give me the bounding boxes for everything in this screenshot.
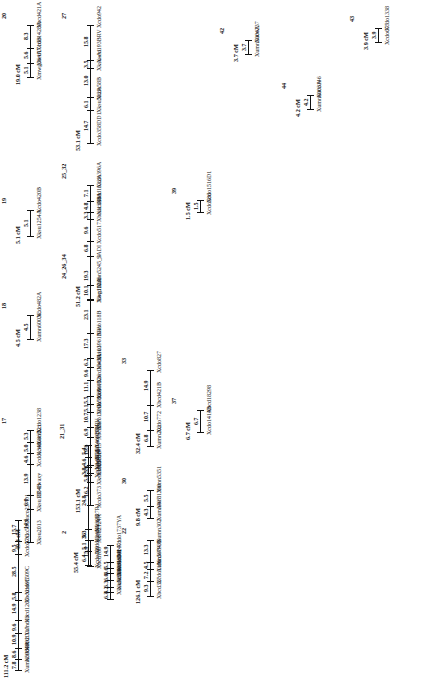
distance-value: 5.4: [81, 447, 87, 455]
marker-label: Xksu1254A: [36, 210, 42, 239]
tick-mark: [147, 490, 154, 491]
tick-mark: [15, 600, 22, 601]
distance-value: 6.3: [103, 592, 109, 600]
distance-value: 19.3: [83, 271, 89, 282]
marker-label: Xumn5984A: [24, 642, 30, 673]
linkage-group-name: 39: [170, 188, 177, 194]
marker-label: Xumn202: [156, 425, 162, 449]
tick-mark: [27, 442, 34, 443]
tick-mark: [87, 143, 94, 144]
marker-label: Xcdo1407A: [94, 449, 100, 478]
distance-value: 6.7: [193, 418, 199, 426]
marker-label: Xwg110A: [96, 278, 102, 303]
distance-value: 5.0: [23, 444, 29, 452]
axis-line: [200, 200, 201, 212]
tick-mark: [147, 581, 154, 582]
tick-mark: [87, 300, 94, 301]
linkage-group-name: 43: [348, 16, 355, 22]
axis-line: [150, 540, 151, 596]
total-length: 55.4 cM: [72, 552, 79, 573]
marker-label: Xaco237D1: [24, 494, 30, 523]
linkage-group-name: 37: [170, 398, 177, 404]
marker-label: Xumn5004A: [254, 26, 260, 57]
distance-value: 3.9: [371, 32, 377, 40]
tick-mark: [27, 315, 34, 316]
tick-mark: [85, 475, 92, 476]
distance-value: 23.1: [83, 310, 89, 321]
distance-value: 4.6: [23, 455, 29, 463]
distance-value: 8.3: [23, 33, 29, 41]
distance-value: 3.3: [83, 212, 89, 220]
tick-mark: [15, 520, 22, 521]
distance-value: 5.3: [23, 433, 29, 441]
marker-label: Xksu-A1: [96, 49, 102, 71]
tick-mark: [87, 185, 94, 186]
tick-mark: [147, 430, 154, 431]
marker-label: Xbcd180: [96, 547, 102, 569]
distance-value: 4.5: [143, 562, 149, 570]
distance-value: 1.5: [193, 203, 199, 211]
tick-mark: [245, 54, 252, 55]
distance-value: 3.8: [81, 467, 87, 475]
tick-mark: [147, 506, 154, 507]
tick-mark: [15, 670, 22, 671]
distance-value: 5.1: [23, 67, 29, 75]
total-length: 4.5 cM: [14, 329, 21, 347]
distance-value: 6.0: [103, 573, 109, 581]
distance-value: 7.2: [143, 571, 149, 579]
marker-label: Xcdo942: [96, 6, 102, 28]
total-length: 126.1 cM: [134, 580, 141, 604]
linkage-group-name: 20: [0, 13, 7, 19]
linkage-group-name: 33: [120, 358, 127, 364]
tick-mark: [15, 554, 22, 555]
tick-mark: [85, 529, 92, 530]
distance-value: 15.9: [83, 547, 89, 558]
tick-mark: [27, 453, 34, 454]
distance-value: 8.6: [11, 650, 17, 658]
distance-value: 5.8: [11, 593, 17, 601]
tick-mark: [27, 63, 34, 64]
total-length: 1.5 cM: [184, 202, 191, 220]
axis-line: [310, 95, 311, 109]
distance-value: 10.9: [11, 634, 17, 645]
distance-value: 6.2: [83, 359, 89, 367]
marker-label: Xcdo586: [206, 193, 212, 215]
tick-mark: [87, 97, 94, 98]
distance-value: 28.5: [11, 567, 17, 578]
distance-value: 15.8: [83, 36, 89, 47]
tick-mark: [87, 540, 94, 541]
tick-mark: [197, 212, 204, 213]
linkage-group-name: 44: [280, 83, 287, 89]
axis-line: [90, 540, 91, 566]
marker-label: Xksu1254B: [36, 483, 42, 512]
axis-line: [30, 25, 31, 77]
axis-line: [30, 210, 31, 236]
tick-mark: [15, 648, 22, 649]
distance-value: 10.7: [83, 413, 89, 424]
marker-label: Xksu2124A: [96, 514, 102, 543]
linkage-group-name: 25_32: [60, 164, 67, 179]
marker-label: Xbcd327: [156, 577, 162, 599]
distance-value: 14.9: [103, 547, 109, 558]
tick-mark: [147, 569, 154, 570]
total-length: 51.2 cM: [74, 286, 81, 307]
distance-value: 4.6: [81, 458, 87, 466]
marker-label: Xbcd421B: [156, 382, 162, 408]
distance-value: 9.6: [11, 623, 17, 631]
tick-mark: [27, 210, 34, 211]
distance-value: 5.6: [23, 52, 29, 60]
axis-line: [200, 410, 201, 432]
distance-value: 9.6: [83, 370, 89, 378]
distance-value: 4.3: [143, 508, 149, 516]
marker-label: Xcdo57C: [24, 534, 30, 557]
distance-value: 9.6: [83, 226, 89, 234]
tick-mark: [87, 437, 94, 438]
total-length: 53.1 cM: [74, 130, 81, 151]
distance-value: 9.5: [11, 544, 17, 552]
distance-value: 24.8: [81, 495, 87, 506]
linkage-group-name: 36: [80, 533, 87, 539]
tick-mark: [87, 219, 94, 220]
distance-value: 7.8: [11, 661, 17, 669]
marker-label: Xumn6003A: [316, 81, 322, 112]
tick-mark: [27, 430, 34, 431]
